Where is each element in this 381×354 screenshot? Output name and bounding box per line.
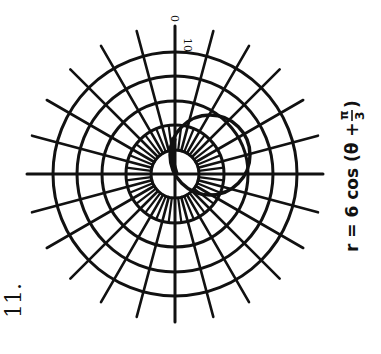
grid-spoke-inner: [178, 198, 181, 223]
equation-fraction-denominator: 3: [353, 112, 367, 120]
problem-number: 11.: [1, 283, 26, 318]
grid-spoke-inner: [199, 168, 224, 171]
grid-spoke: [70, 191, 158, 279]
grid-spoke: [70, 69, 158, 157]
equation-fraction-numerator: π: [337, 111, 351, 121]
grid-spoke: [192, 191, 280, 279]
grid-spoke-inner: [126, 177, 151, 180]
grid-spoke-inner: [126, 168, 151, 171]
axis-label-inner: 10: [181, 38, 194, 52]
grid-spoke: [192, 69, 280, 157]
grid-spoke-inner: [199, 177, 224, 180]
axis-label-outer: 0: [168, 15, 181, 22]
equation-label: r = 6 cos (θ + π 3 ): [337, 100, 367, 252]
grid-spoke-inner: [169, 198, 172, 223]
equation-lhs: r = 6 cos (θ +: [342, 122, 362, 252]
polar-graph: 0 10 r = 6 cos (θ + π 3 ) 11.: [0, 0, 381, 354]
svg-text:r = 6 cos (θ +: r = 6 cos (θ +: [342, 122, 362, 252]
equation-close-paren: ): [342, 100, 362, 108]
